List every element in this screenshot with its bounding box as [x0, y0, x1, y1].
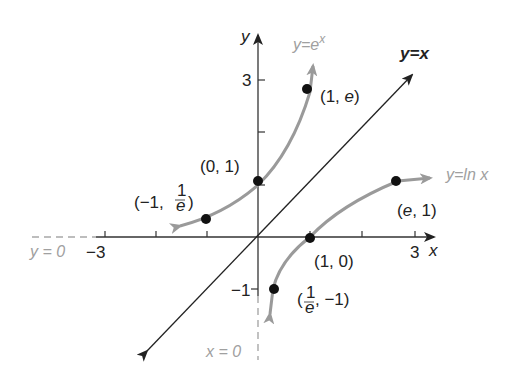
ln-curve-label: y=ln x: [445, 166, 489, 183]
point-inv-e-neg1: [269, 284, 279, 294]
x-axis-label: x: [428, 241, 438, 260]
point-1-0: [305, 233, 315, 243]
svg-text:(−1,: (−1,: [134, 193, 164, 212]
exp-curve: [180, 66, 313, 226]
label-point-1-0: (1, 0): [314, 252, 354, 271]
tick-label-neg1: −1: [231, 281, 250, 300]
asymptote-y0-label: y = 0: [29, 243, 65, 260]
svg-text:, −1): , −1): [315, 290, 350, 309]
point-1-e: [302, 84, 312, 94]
tick-label-3x: 3: [410, 243, 419, 262]
svg-text:e: e: [305, 298, 314, 317]
label-point-0-1: (0, 1): [200, 157, 240, 176]
asymptote-x0-label: x = 0: [205, 343, 241, 360]
tick-label-neg3: −3: [86, 243, 105, 262]
point-neg1-inv-e: [201, 214, 211, 224]
point-0-1: [253, 176, 263, 186]
point-e-1: [391, 176, 401, 186]
label-point-1-e: (1, e): [320, 87, 360, 106]
identity-label: y=x: [399, 44, 430, 63]
exp-curve-label: y=ex: [292, 32, 326, 53]
tick-label-3y: 3: [242, 71, 251, 90]
identity-line: [147, 75, 412, 351]
svg-text:(: (: [297, 290, 303, 309]
y-axis-label: y: [240, 27, 251, 46]
svg-text:): ): [188, 193, 194, 212]
label-point-neg1-inv-e: (−1, 1 e ): [134, 181, 194, 215]
label-point-inv-e-neg1: ( 1 e , −1): [297, 283, 350, 317]
chart-canvas: y x −3 3 3 −1 y=ex y=x y=ln x y = 0 x = …: [0, 0, 529, 386]
svg-text:e: e: [176, 196, 185, 215]
label-point-e-1: (e, 1): [397, 201, 437, 220]
